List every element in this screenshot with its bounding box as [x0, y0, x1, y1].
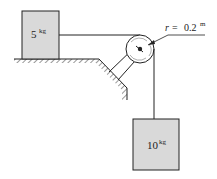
svg-text:r: r	[165, 22, 169, 33]
block-5kg-mass: 5	[31, 28, 37, 40]
pulley-diagram: 5 kg r = 0.2 m 10 kg	[0, 0, 217, 179]
block-10kg: 10 kg	[133, 119, 179, 170]
block-5kg: 5 kg	[22, 11, 59, 59]
block-10kg-unit: kg	[159, 138, 167, 146]
block-10kg-mass: 10	[147, 139, 159, 151]
pulley-axle-icon	[138, 47, 142, 51]
block-5kg-unit: kg	[39, 27, 47, 35]
ground-surface	[14, 59, 127, 100]
pulley	[126, 35, 154, 63]
radius-label: r = 0.2 m	[148, 20, 206, 45]
svg-text:m: m	[200, 20, 206, 28]
svg-text:=: =	[172, 22, 178, 33]
svg-text:0.2: 0.2	[184, 22, 197, 33]
